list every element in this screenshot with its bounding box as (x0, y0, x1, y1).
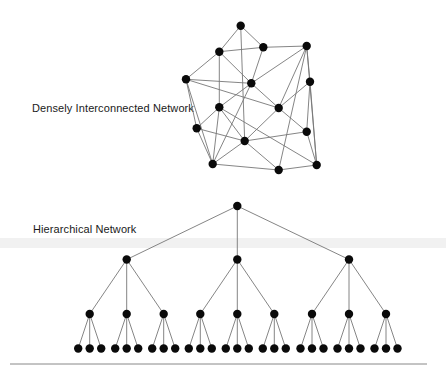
dense-edge (219, 26, 240, 52)
dense-node (193, 124, 201, 132)
dense-edge (219, 83, 251, 107)
tree-level2-node (86, 310, 94, 318)
dense-edge (197, 107, 220, 128)
tree-leaf-node (97, 344, 105, 352)
tree-leaf-node (111, 344, 119, 352)
dense-edge (241, 26, 264, 48)
tree-leaf-node (370, 344, 378, 352)
dense-edge (307, 82, 310, 132)
tree-leaf-node (345, 344, 353, 352)
tree-edge (349, 260, 386, 315)
dense-edge (213, 107, 220, 164)
tree-leaf-node (208, 344, 216, 352)
dense-edge (251, 47, 263, 83)
dense-node (275, 166, 283, 174)
dense-node (247, 79, 255, 87)
dense-node (303, 128, 311, 136)
tree-edge (312, 260, 349, 315)
tree-edge (127, 206, 238, 260)
dense-edge (219, 107, 316, 165)
tree-edge (189, 314, 201, 349)
dense-network-edges (186, 26, 317, 170)
tree-leaf-node (296, 344, 304, 352)
dense-edge (263, 46, 306, 47)
tree-edge (263, 314, 275, 349)
tree-edge (200, 260, 237, 315)
tree-leaf-node (356, 344, 364, 352)
tree-level2-node (345, 310, 353, 318)
dense-node (306, 78, 314, 86)
tree-leaf-node (196, 344, 204, 352)
tree-edge (386, 314, 398, 349)
tree-leaf-node (259, 344, 267, 352)
tree-edge (349, 314, 361, 349)
dense-edge (245, 141, 279, 170)
tree-edge (237, 260, 274, 315)
tree-leaf-node (123, 344, 131, 352)
tree-level2-node (196, 310, 204, 318)
tree-edge (237, 314, 249, 349)
dense-edge (186, 79, 213, 164)
dense-node (237, 22, 245, 30)
tree-leaf-node (222, 344, 230, 352)
tree-edge (338, 314, 350, 349)
dense-edge (186, 79, 279, 108)
dense-node (215, 103, 223, 111)
dense-node (313, 161, 321, 169)
tree-edge (226, 314, 238, 349)
dense-edge (213, 164, 279, 170)
tree-edge (200, 314, 212, 349)
tree-level1-node (123, 255, 131, 263)
tree-edge (301, 314, 313, 349)
tree-edge (312, 314, 324, 349)
dense-node (259, 43, 267, 51)
tree-edge (237, 206, 349, 260)
tree-root-node (233, 202, 241, 210)
dense-edge (279, 108, 307, 132)
network-diagram (0, 0, 446, 378)
tree-edge (90, 314, 102, 349)
dense-node (241, 137, 249, 145)
tree-leaf-node (185, 344, 193, 352)
tree-level2-node (382, 310, 390, 318)
hierarchical-network-edges (78, 206, 397, 349)
tree-edge (152, 314, 164, 349)
tree-level2-node (270, 310, 278, 318)
dense-edge (245, 108, 279, 141)
dense-edge (245, 132, 307, 141)
tree-leaf-node (171, 344, 179, 352)
dense-edge (186, 52, 219, 80)
dense-edge (279, 165, 317, 170)
dense-edge (219, 107, 244, 141)
dense-edge (186, 79, 197, 128)
tree-level2-node (308, 310, 316, 318)
tree-leaf-node (74, 344, 82, 352)
tree-level2-node (123, 310, 131, 318)
tree-edge (90, 260, 127, 315)
dense-edge (251, 83, 278, 108)
dense-node (275, 104, 283, 112)
tree-level1-node (345, 255, 353, 263)
hierarchical-network-nodes (74, 202, 402, 353)
tree-leaf-node (382, 344, 390, 352)
tree-edge (164, 314, 176, 349)
dense-node (303, 42, 311, 50)
tree-edge (274, 314, 286, 349)
dense-node (209, 160, 217, 168)
tree-edge (115, 314, 127, 349)
tree-leaf-node (333, 344, 341, 352)
tree-level2-node (233, 310, 241, 318)
dense-network-nodes (182, 22, 321, 175)
tree-edge (127, 260, 164, 315)
dense-edge (279, 46, 307, 170)
dense-edge (279, 82, 310, 108)
tree-leaf-node (393, 344, 401, 352)
tree-leaf-node (233, 344, 241, 352)
tree-leaf-node (160, 344, 168, 352)
tree-edge (375, 314, 387, 349)
tree-leaf-node (134, 344, 142, 352)
tree-leaf-node (245, 344, 253, 352)
tree-leaf-node (148, 344, 156, 352)
dense-edge (219, 52, 251, 84)
tree-leaf-node (86, 344, 94, 352)
